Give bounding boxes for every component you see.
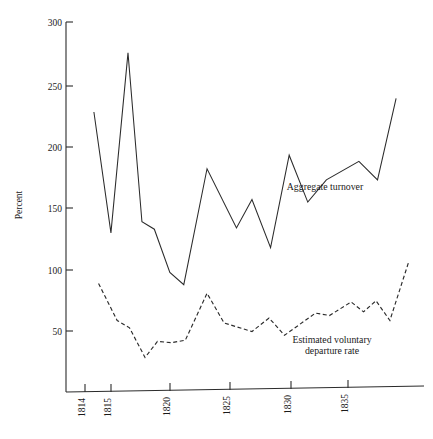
y-axis-title: Percent [14, 190, 24, 219]
chart-background [0, 0, 433, 439]
y-tick-label-250: 250 [48, 82, 63, 92]
x-tick-label-1815: 1815 [103, 398, 113, 417]
x-tick-label-1830: 1830 [283, 395, 293, 414]
y-tick-label-200: 200 [48, 143, 63, 153]
annotation-departure-rate-line1: Estimated voluntary [292, 334, 371, 345]
annotation-aggregate-turnover: Aggregate turnover [287, 181, 364, 192]
annotation-departure-rate-line2: departure rate [305, 345, 360, 356]
line-chart-svg: 300 250 200 150 100 50 Percent 1814 [0, 0, 433, 439]
chart-figure: 300 250 200 150 100 50 Percent 1814 [0, 0, 433, 439]
x-tick-label-1835: 1835 [340, 394, 350, 413]
y-tick-label-100: 100 [48, 266, 63, 276]
x-tick-label-1825: 1825 [222, 396, 232, 415]
y-tick-label-300: 300 [48, 18, 63, 28]
y-tick-label-150: 150 [48, 204, 63, 214]
y-tick-label-50: 50 [53, 327, 63, 337]
x-tick-label-1820: 1820 [162, 397, 172, 416]
x-tick-label-1814: 1814 [77, 398, 87, 417]
